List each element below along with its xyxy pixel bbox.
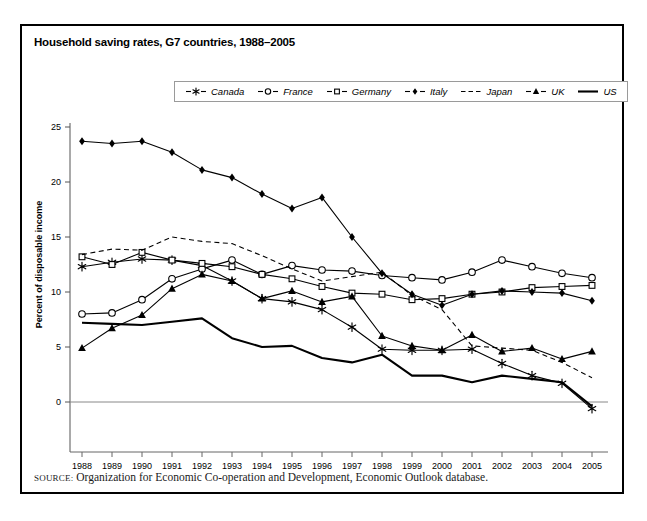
x-tick-label: 2002: [492, 461, 512, 471]
x-tick-label: 2004: [552, 461, 572, 471]
x-tick-label: 1998: [372, 461, 392, 471]
y-axis-title: Percent of disposable income: [34, 201, 44, 329]
x-tick-label: 2003: [522, 461, 542, 471]
series-japan: [82, 237, 592, 378]
x-tick-label: 2000: [432, 461, 452, 471]
source-note: SOURCE: Organization for Economic Co-ope…: [34, 471, 488, 483]
x-tick-label: 1997: [342, 461, 362, 471]
x-tick-label: 2005: [582, 461, 602, 471]
y-tick-label: 20: [51, 177, 61, 187]
series-us: [82, 318, 592, 406]
x-tick-label: 1988: [72, 461, 92, 471]
x-tick-label: 1990: [132, 461, 152, 471]
x-tick-label: 1992: [192, 461, 212, 471]
source-keyword: SOURCE:: [34, 473, 73, 483]
x-tick-label: 1996: [312, 461, 332, 471]
plot-area: 0510152025Percent of disposable income19…: [22, 26, 626, 496]
x-tick-label: 1995: [282, 461, 302, 471]
figure-frame: Household saving rates, G7 countries, 19…: [20, 24, 624, 494]
series-germany: [79, 250, 595, 303]
series-france: [79, 257, 596, 318]
series-uk: [78, 270, 596, 362]
x-tick-label: 2001: [462, 461, 482, 471]
series-italy: [79, 137, 595, 309]
y-tick-label: 15: [51, 232, 61, 242]
x-tick-label: 1993: [222, 461, 242, 471]
x-tick-label: 1999: [402, 461, 422, 471]
y-tick-label: 0: [56, 397, 61, 407]
line-chart-svg: 0510152025Percent of disposable income19…: [22, 26, 626, 496]
x-tick-label: 1994: [252, 461, 272, 471]
y-tick-label: 5: [56, 342, 61, 352]
x-tick-label: 1991: [162, 461, 182, 471]
y-tick-label: 25: [51, 122, 61, 132]
y-tick-label: 10: [51, 287, 61, 297]
source-text: Organization for Economic Co-operation a…: [76, 471, 488, 483]
x-tick-label: 1989: [102, 461, 122, 471]
